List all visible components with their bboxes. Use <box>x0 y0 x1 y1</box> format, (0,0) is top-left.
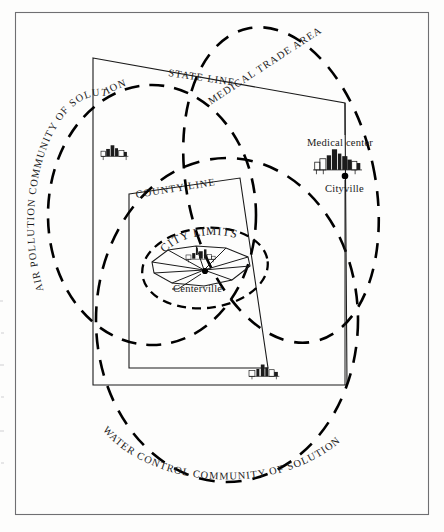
medical-trade-area-label: MEDICAL TRADE AREA <box>206 24 324 106</box>
scan-artifact <box>0 364 4 366</box>
centerville-marker <box>202 268 208 274</box>
cityville-marker <box>342 173 349 180</box>
place-cityville[interactable]: Medical center Cityville <box>307 103 373 385</box>
centerville-label: Centerville <box>173 283 222 294</box>
place-town-south[interactable] <box>249 365 279 380</box>
scan-artifact <box>1 396 4 398</box>
water-control-boundary <box>96 158 358 482</box>
scan-artifact <box>1 462 4 464</box>
cityville-label: Cityville <box>325 183 364 194</box>
water-control-label: WATER CONTROL COMMUNITY OF SOLUTION <box>101 424 342 482</box>
map-svg: Centerville Medical center <box>0 0 444 532</box>
city-skyline-icon <box>249 365 279 380</box>
air-pollution-label: AIR POLLUTION COMMUNITY OF SOLUTION <box>25 77 128 293</box>
medical-center-label: Medical center <box>307 137 373 148</box>
state-line-boundary <box>93 58 347 385</box>
county-line-boundary <box>129 178 268 368</box>
county-line-label: COUNTY LINE <box>135 176 217 200</box>
figure-canvas: Centerville Medical center <box>0 0 444 532</box>
scan-artifact <box>0 430 4 432</box>
place-town-northwest[interactable] <box>101 145 128 160</box>
city-skyline-icon <box>101 145 128 160</box>
scan-artifact <box>1 332 4 334</box>
city-skyline-icon <box>313 149 362 174</box>
scan-artifact <box>0 300 3 302</box>
